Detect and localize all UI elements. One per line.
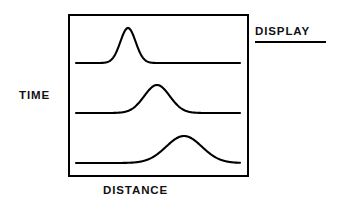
y-axis-label-time: TIME <box>19 90 50 102</box>
x-axis-label-distance: DISTANCE <box>103 185 168 197</box>
display-underline-rule <box>255 41 326 43</box>
pulse-trace-mid <box>76 85 240 113</box>
display-annotation-label: DISPLAY <box>255 26 326 38</box>
pulse-trace-early <box>76 28 240 63</box>
pulse-trace-late <box>76 136 240 163</box>
display-annotation-group: DISPLAY <box>255 26 326 43</box>
figure-root: TIME DISTANCE DISPLAY <box>0 0 340 208</box>
